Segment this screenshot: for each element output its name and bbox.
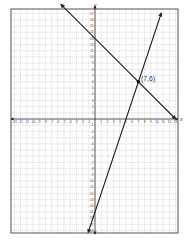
x-tick-label: 4 (119, 120, 121, 124)
x-tick-label: 1 (100, 120, 102, 124)
y-tick-label: 2 (92, 105, 94, 109)
x-tick-label: 10 (155, 120, 159, 124)
y-tick-label: 6 (92, 80, 94, 84)
y-tick-label: 17 (90, 12, 94, 16)
grid (11, 9, 178, 233)
y-tick-label: -8 (91, 167, 94, 171)
y-tick-label: -6 (91, 154, 94, 158)
coordinate-plane: xy-13-12-11-10-9-8-7-6-5-4-3-2-112345678… (0, 0, 186, 242)
y-tick-label: -9 (91, 173, 94, 177)
x-tick-label: 2 (107, 120, 109, 124)
y-tick-label: 11 (90, 49, 94, 53)
x-tick-label: -5 (63, 120, 66, 124)
y-tick-label: 1 (92, 111, 94, 115)
x-tick-label: -8 (44, 120, 47, 124)
y-tick-label: 10 (90, 55, 94, 59)
y-tick-label: -14 (89, 204, 94, 208)
x-tick-label: 9 (150, 120, 152, 124)
x-tick-label: -3 (75, 120, 78, 124)
x-tick-label: -12 (18, 120, 23, 124)
y-tick-label: -1 (91, 123, 94, 127)
x-tick-label: -2 (81, 120, 84, 124)
x-tick-label: 11 (162, 120, 166, 124)
x-tick-label: -9 (38, 120, 41, 124)
y-tick-label: 8 (92, 68, 94, 72)
x-tick-label: 7 (138, 120, 140, 124)
y-tick-label: 3 (92, 99, 94, 103)
x-tick-label: 3 (113, 120, 115, 124)
graph-svg: xy-13-12-11-10-9-8-7-6-5-4-3-2-112345678… (0, 0, 186, 242)
x-tick-label: -13 (12, 120, 17, 124)
x-tick-label: 13 (174, 120, 178, 124)
y-tick-label: -2 (91, 130, 94, 134)
x-axis-label: x (179, 116, 183, 122)
x-tick-label: 12 (168, 120, 172, 124)
y-tick-label: -10 (89, 179, 94, 183)
y-tick-label: -12 (89, 192, 94, 196)
y-tick-label: 9 (92, 61, 94, 65)
y-tick-label: -13 (89, 198, 94, 202)
y-tick-label: 5 (92, 86, 94, 90)
x-tick-label: -10 (31, 120, 36, 124)
x-tick-label: -7 (50, 120, 53, 124)
intersection-label: (7,6) (141, 75, 155, 83)
y-tick-label: -5 (91, 148, 94, 152)
x-tick-label: -4 (69, 120, 72, 124)
y-tick-label: -3 (91, 136, 94, 140)
intersection-point (137, 80, 141, 84)
y-tick-label: 16 (90, 18, 94, 22)
y-tick-label: 15 (90, 24, 94, 28)
y-axis-label: y (93, 2, 97, 8)
x-tick-label: 6 (131, 120, 133, 124)
y-tick-label: 12 (90, 43, 94, 47)
y-tick-label: -11 (89, 185, 94, 189)
y-tick-label: -4 (91, 142, 94, 146)
y-tick-label: -7 (91, 161, 94, 165)
y-tick-label: -15 (89, 210, 94, 214)
y-tick-label: 7 (92, 74, 94, 78)
x-tick-label: 8 (144, 120, 146, 124)
x-tick-label: -6 (56, 120, 59, 124)
x-tick-label: -11 (25, 120, 30, 124)
y-tick-label: 4 (92, 92, 94, 96)
